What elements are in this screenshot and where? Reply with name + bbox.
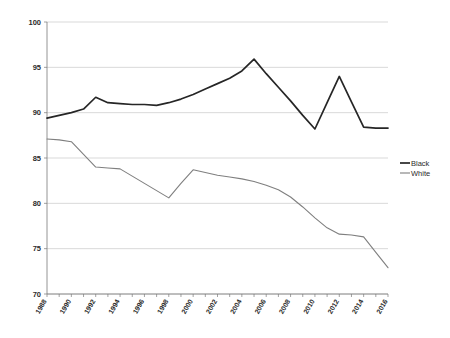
y-tick-label-80: 80: [33, 199, 41, 208]
y-tick-label-75: 75: [33, 244, 41, 253]
y-tick-label-95: 95: [33, 63, 41, 72]
line-chart: 707580859095100 198819901992199419961998…: [0, 0, 450, 338]
y-tick-label-100: 100: [28, 18, 41, 27]
chart-background: [0, 0, 450, 338]
chart-container: 707580859095100 198819901992199419961998…: [0, 0, 450, 338]
legend-label-black: Black: [411, 159, 430, 168]
y-tick-label-85: 85: [33, 154, 41, 163]
y-tick-label-90: 90: [33, 108, 41, 117]
y-tick-label-70: 70: [33, 290, 41, 299]
legend-label-white: White: [411, 169, 430, 178]
